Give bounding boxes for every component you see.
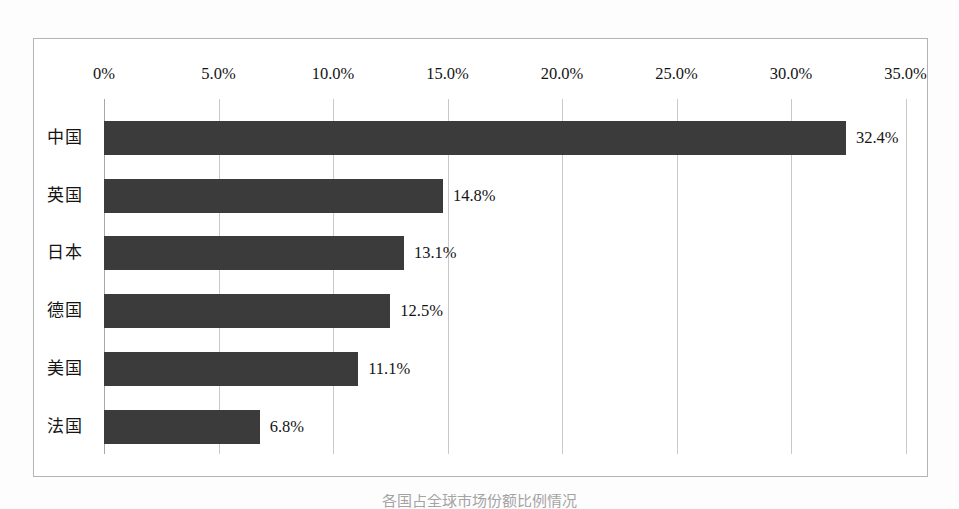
category-label-5: 法国 bbox=[34, 415, 96, 439]
bar-row: 法国6.8% bbox=[34, 398, 927, 456]
category-label-2: 日本 bbox=[34, 241, 96, 265]
category-label-1: 英国 bbox=[34, 184, 96, 208]
bar-value-label-3: 12.5% bbox=[400, 300, 443, 322]
category-label-4: 美国 bbox=[34, 357, 96, 381]
x-axis-tick-4: 20.0% bbox=[541, 63, 584, 85]
bar-value-label-0: 32.4% bbox=[856, 127, 899, 149]
x-axis-tick-0: 0% bbox=[93, 63, 115, 85]
bar-value-label-4: 11.1% bbox=[368, 358, 410, 380]
plot-area: 0%5.0%10.0%15.0%20.0%25.0%30.0%35.0% 中国3… bbox=[34, 39, 927, 476]
category-label-3: 德国 bbox=[34, 299, 96, 323]
x-axis-tick-labels: 0%5.0%10.0%15.0%20.0%25.0%30.0%35.0% bbox=[34, 63, 927, 85]
bar-5 bbox=[104, 410, 260, 444]
chart-frame: 0%5.0%10.0%15.0%20.0%25.0%30.0%35.0% 中国3… bbox=[33, 38, 928, 477]
bar-2 bbox=[104, 236, 404, 270]
bar-value-label-1: 14.8% bbox=[453, 185, 496, 207]
bar-row: 日本13.1% bbox=[34, 225, 927, 283]
x-axis-tick-7: 35.0% bbox=[884, 63, 927, 85]
bar-row: 中国32.4% bbox=[34, 109, 927, 167]
x-axis-tick-6: 30.0% bbox=[770, 63, 813, 85]
bar-value-label-5: 6.8% bbox=[270, 416, 304, 438]
bar-row: 英国14.8% bbox=[34, 167, 927, 225]
x-axis-tick-2: 10.0% bbox=[312, 63, 355, 85]
bar-1 bbox=[104, 179, 443, 213]
x-axis-tick-5: 25.0% bbox=[655, 63, 698, 85]
bar-row: 美国11.1% bbox=[34, 340, 927, 398]
bar-3 bbox=[104, 294, 390, 328]
bar-4 bbox=[104, 352, 358, 386]
bar-0 bbox=[104, 121, 846, 155]
x-axis-tick-3: 15.0% bbox=[426, 63, 469, 85]
bar-value-label-2: 13.1% bbox=[414, 242, 457, 264]
figure-caption: 各国占全球市场份额比例情况 bbox=[0, 494, 959, 509]
x-axis-tick-1: 5.0% bbox=[201, 63, 235, 85]
page-background: 0%5.0%10.0%15.0%20.0%25.0%30.0%35.0% 中国3… bbox=[0, 0, 959, 509]
category-label-0: 中国 bbox=[34, 126, 96, 150]
bar-row: 德国12.5% bbox=[34, 282, 927, 340]
